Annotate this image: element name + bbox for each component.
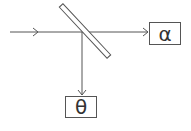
theta-label: θ xyxy=(75,95,87,119)
alpha-detector-box: α xyxy=(149,22,181,45)
mirror xyxy=(59,4,110,59)
alpha-label: α xyxy=(158,22,171,46)
theta-detector-box: θ xyxy=(65,96,97,118)
